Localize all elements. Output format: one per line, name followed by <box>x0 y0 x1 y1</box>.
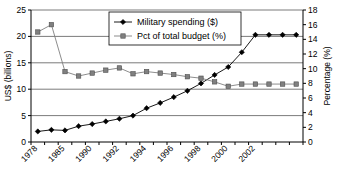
y-axis-right-tick-label: 10 <box>308 64 318 74</box>
data-point-marker-square <box>121 34 125 38</box>
y-axis-right-tick-label: 16 <box>308 20 318 30</box>
data-point-marker-square <box>36 30 40 34</box>
data-point-marker-square <box>144 69 148 73</box>
x-axis-tick-label: 1994 <box>128 143 149 164</box>
y-axis-right-title: Percentage (%) <box>322 46 332 105</box>
data-point-marker-square <box>226 84 230 88</box>
data-point-marker-square <box>76 74 80 78</box>
x-axis-tick-label: 2000 <box>209 143 230 164</box>
y-axis-right-tick-label: 18 <box>308 5 318 15</box>
y-axis-right-tick-label: 4 <box>308 108 313 118</box>
y-axis-left-tick-label: 5 <box>21 111 26 121</box>
data-point-marker-square <box>104 68 108 72</box>
data-point-marker-square <box>90 71 94 75</box>
y-axis-left-tick-label: 10 <box>17 84 27 94</box>
data-point-marker-square <box>212 80 216 84</box>
y-axis-left-title: US$ (billions) <box>3 51 13 102</box>
y-axis-left-tick-label: 15 <box>17 58 27 68</box>
data-point-marker-square <box>253 82 257 86</box>
chart-container: 0510152025024681012141618197819851990199… <box>0 0 340 182</box>
y-axis-right-tick-label: 14 <box>308 34 318 44</box>
y-axis-left-tick-label: 0 <box>21 137 26 147</box>
data-point-marker-square <box>267 82 271 86</box>
legend-label: Military spending ($) <box>137 17 218 27</box>
data-point-marker-square <box>63 69 67 73</box>
data-point-marker-square <box>131 72 135 76</box>
data-point-marker-square <box>240 82 244 86</box>
data-point-marker-square <box>185 75 189 79</box>
legend-label: Pct of total budget (%) <box>137 31 226 41</box>
x-axis-tick-label: 2002 <box>236 143 257 164</box>
data-point-marker-square <box>280 82 284 86</box>
x-axis-tick-label: 1996 <box>155 143 176 164</box>
y-axis-left-tick-label: 20 <box>17 31 27 41</box>
y-axis-right-tick-label: 2 <box>308 122 313 132</box>
legend: Military spending ($)Pct of total budget… <box>109 12 241 45</box>
y-axis-right-tick-label: 0 <box>308 137 313 147</box>
y-axis-right-tick-label: 8 <box>308 78 313 88</box>
x-axis-tick-label: 1990 <box>73 143 94 164</box>
y-axis-right-tick-label: 6 <box>308 93 313 103</box>
y-axis-right-tick-label: 12 <box>308 49 318 59</box>
data-point-marker-square <box>199 76 203 80</box>
dual-axis-line-chart: 0510152025024681012141618197819851990199… <box>0 0 340 182</box>
x-axis-tick-label: 1992 <box>100 143 121 164</box>
data-point-marker-square <box>172 72 176 76</box>
data-point-marker-square <box>117 66 121 70</box>
y-axis-left-tick-label: 25 <box>17 5 27 15</box>
data-point-marker-square <box>49 22 53 26</box>
x-axis-tick-label: 1985 <box>46 143 67 164</box>
x-axis-tick-label: 1998 <box>182 143 203 164</box>
data-point-marker-square <box>294 82 298 86</box>
data-point-marker-square <box>158 71 162 75</box>
